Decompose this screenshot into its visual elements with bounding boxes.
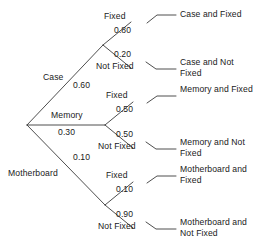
- branch-label-memory: Memory: [51, 110, 83, 121]
- leaf-connector-3: [147, 96, 176, 103]
- branch-label-motherboard-fixed: Fixed: [106, 170, 128, 181]
- outcome-case-not-fixed: Case and Not Fixed: [180, 57, 254, 78]
- branch-label-case: Case: [43, 72, 63, 83]
- outcome-memory-not-fixed: Memory and Not Fixed: [180, 137, 254, 158]
- outcome-motherboard-fixed: Motherboard and Fixed: [180, 164, 254, 185]
- branch-probability-case-notfixed: 0.20: [114, 49, 131, 60]
- branch-label-memory-fixed: Fixed: [106, 90, 128, 101]
- branch-probability-memory-fixed: 0.50: [116, 104, 133, 115]
- branch-probability-motherboard-fixed: 0.10: [116, 184, 133, 195]
- branch-label-motherboard-notfixed: Not Fixed: [98, 221, 136, 232]
- branch-label-case-notfixed: Not Fixed: [96, 61, 134, 72]
- outcome-memory-fixed: Memory and Fixed: [180, 84, 254, 95]
- leaf-connector-4: [146, 142, 176, 149]
- branch-probability-case: 0.60: [73, 80, 90, 91]
- leaf-connector-5: [147, 176, 176, 183]
- probability-tree-diagram: Case 0.60 Memory 0.30 Motherboard 0.10 F…: [0, 0, 258, 248]
- outcome-case-fixed: Case and Fixed: [180, 9, 254, 20]
- branch-probability-motherboard: 0.10: [73, 152, 90, 163]
- leaf-connector-6: [146, 222, 176, 229]
- branch-label-case-fixed: Fixed: [104, 11, 126, 22]
- leaf-connector-1: [147, 15, 176, 23]
- branch-probability-case-fixed: 0.80: [114, 25, 131, 36]
- branch-probability-memory-notfixed: 0.50: [116, 129, 133, 140]
- outcome-motherboard-not-fixed: Motherboard and Not Fixed: [180, 217, 254, 238]
- branch-probability-motherboard-notfixed: 0.90: [116, 209, 133, 220]
- leaf-connector-2: [146, 62, 176, 69]
- branch-label-motherboard: Motherboard: [8, 168, 58, 179]
- branch-label-memory-notfixed: Not Fixed: [98, 141, 136, 152]
- branch-probability-memory: 0.30: [58, 127, 75, 138]
